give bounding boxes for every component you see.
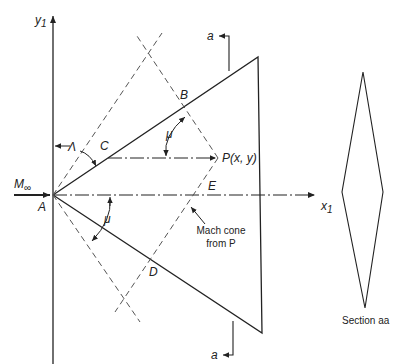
y-axis-label: y1 <box>35 14 47 29</box>
point-D-label: D <box>149 266 158 278</box>
freestream-label: M∞ <box>14 178 31 193</box>
point-P-label: P(x, y) <box>222 152 257 164</box>
mach-cone-label-line2: from P <box>190 239 252 249</box>
point-B-label: B <box>180 89 188 101</box>
mu-lower-label: μ <box>104 213 111 225</box>
wing-diagram-svg <box>0 0 401 364</box>
point-C-label: C <box>100 140 109 152</box>
point-A-label: A <box>38 201 46 213</box>
section-marker-top-label: a <box>207 30 214 42</box>
mach-cone-pointer <box>191 207 205 224</box>
section-caption: Section aa <box>342 316 389 326</box>
section-marker-top <box>219 36 229 71</box>
x-axis-label: x1 <box>321 200 333 215</box>
mach-line-A-upper <box>53 33 162 195</box>
mach-line-P-upper <box>135 33 218 158</box>
diagram-canvas: y1 x1 M∞ A B C D E P(x, y) Λ μ μ Mach co… <box>0 0 401 364</box>
section-marker-bottom <box>223 321 233 355</box>
point-E-label: E <box>208 180 216 192</box>
section-aa-shape <box>342 72 383 308</box>
sweep-angle-arc <box>80 151 96 166</box>
section-marker-bottom-label: a <box>211 349 218 361</box>
mu-upper-label: μ <box>166 128 173 140</box>
mach-line-A-lower <box>53 195 140 322</box>
sweep-angle-label: Λ <box>68 141 76 153</box>
mach-cone-label-line1: Mach cone <box>190 226 252 236</box>
